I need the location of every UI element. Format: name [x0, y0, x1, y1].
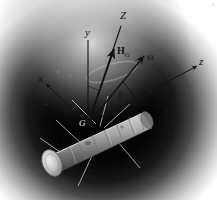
hull-port [85, 141, 91, 145]
label-vector-HG: HG [117, 46, 130, 59]
label-vector-HG-subscript: G [125, 51, 130, 59]
hull-port-secondary [120, 126, 124, 129]
label-vector-omega: ω [147, 52, 154, 62]
label-axis-z: z [199, 56, 203, 67]
label-angle-theta: θ [118, 90, 123, 100]
label-vector-HG-symbol: H [117, 45, 125, 56]
diagram-canvas [0, 0, 217, 200]
label-axis-Z: Z [120, 10, 126, 21]
figure-container: Z y x z HG ω θ G c [0, 0, 217, 200]
label-axis-y: y [85, 27, 90, 38]
point-G-marker [86, 122, 90, 126]
label-point-G: G [79, 119, 86, 128]
corner-mark: c [212, 1, 215, 7]
label-axis-x: x [38, 73, 43, 84]
